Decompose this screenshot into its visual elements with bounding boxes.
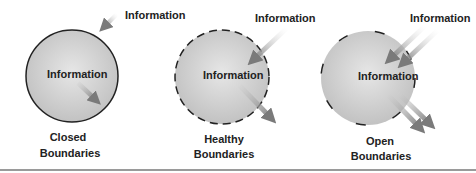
incoming-arrow-icon (104, 14, 117, 27)
caption-line2: Boundaries (40, 147, 101, 159)
inner-label: Information (358, 70, 419, 82)
inner-label: Information (47, 68, 108, 80)
incoming-label: Information (255, 12, 316, 24)
caption-line1: Healthy (204, 133, 245, 145)
healthy-boundaries-diagram: Information Information Healthy Boundari… (175, 12, 316, 160)
incoming-arrow-icon (403, 30, 438, 63)
incoming-label: Information (125, 9, 186, 21)
boundaries-diagram: Information Information Closed Boundarie… (0, 0, 476, 173)
caption-line1: Open (366, 135, 394, 147)
open-boundaries-diagram: Information Information Open Boundaries (321, 12, 471, 162)
incoming-arrow-icon (253, 28, 287, 60)
bottom-divider (0, 169, 476, 171)
caption-line2: Boundaries (194, 148, 255, 160)
caption-line1: Closed (50, 131, 87, 143)
inner-label: Information (203, 69, 264, 81)
closed-boundaries-diagram: Information Information Closed Boundarie… (26, 9, 186, 159)
incoming-label: Information (410, 12, 471, 24)
caption-line2: Boundaries (351, 150, 412, 162)
